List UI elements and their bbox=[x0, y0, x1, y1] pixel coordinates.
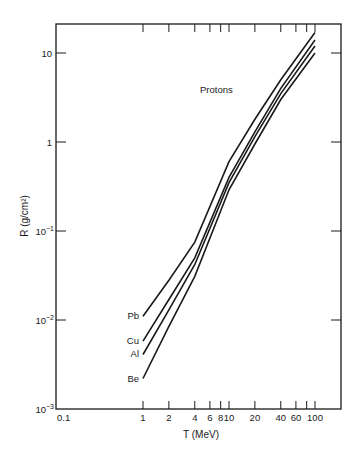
curve-be bbox=[143, 53, 315, 379]
y-tick-label: 1 bbox=[47, 137, 52, 148]
x-tick-label: 10 bbox=[224, 412, 235, 423]
x-tick-label: 2 bbox=[166, 412, 171, 423]
x-tick-label: 4 bbox=[192, 412, 197, 423]
curve-label-pb: Pb bbox=[127, 310, 139, 321]
x-tick-label: 100 bbox=[307, 412, 323, 423]
x-axis-label: T (MeV) bbox=[183, 429, 219, 440]
y-tick-label: 10−3 bbox=[35, 403, 54, 415]
y-tick-label: 10 bbox=[41, 48, 52, 59]
range-energy-chart: 0.11246810204060100 10−310−210−1110 PbCu… bbox=[0, 0, 360, 452]
curve-labels: PbCuAlBe bbox=[127, 310, 139, 383]
x-tick-label: 40 bbox=[275, 412, 286, 423]
annotation-protons: Protons bbox=[200, 84, 233, 95]
axis-ticks bbox=[56, 24, 341, 409]
x-tick-label: 20 bbox=[250, 412, 261, 423]
x-tick-label: 8 bbox=[218, 412, 223, 423]
plot-frame bbox=[56, 24, 341, 409]
y-axis-label: R (g/cm²) bbox=[19, 195, 30, 237]
curve-label-al: Al bbox=[131, 348, 139, 359]
curve-label-cu: Cu bbox=[127, 335, 139, 346]
x-tick-label: 6 bbox=[207, 412, 212, 423]
x-tick-label: 1 bbox=[140, 412, 145, 423]
y-tick-label: 10−1 bbox=[35, 225, 54, 237]
y-tick-labels: 10−310−210−1110 bbox=[35, 48, 54, 415]
y-tick-label: 10−2 bbox=[35, 314, 54, 326]
x-tick-label: 0.1 bbox=[57, 412, 70, 423]
x-tick-label: 60 bbox=[291, 412, 302, 423]
curve-pb bbox=[143, 33, 315, 317]
x-tick-labels: 0.11246810204060100 bbox=[57, 412, 323, 423]
curve-label-be: Be bbox=[127, 373, 139, 384]
